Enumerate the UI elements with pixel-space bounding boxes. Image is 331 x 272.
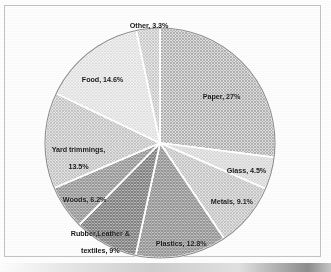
slice-label-food: Food, 14.6% (74, 68, 123, 93)
slice-label-food-line1: Food, 14.6% (82, 75, 123, 84)
slice-label-other-line1: Other, 3.3% (130, 21, 169, 30)
slice-label-woods: Woods, 6.2% (55, 188, 106, 213)
slice-label-metals: Metals, 9.1% (203, 190, 253, 215)
slice-label-plastics-line1: Plastics, 12.8% (156, 239, 207, 248)
slice-label-paper-line1: Paper, 27% (203, 92, 240, 101)
slice-label-yard-trimmings: Yard trimmings, 13.5% (44, 138, 105, 180)
scan-edge-artifact (0, 263, 331, 272)
slice-label-plastics: Plastics, 12.8% (148, 232, 207, 257)
pie-chart-figure: Paper, 27% Glass, 4.5% Metals, 9.1% Plas… (0, 0, 331, 272)
slice-label-paper: Paper, 27% (195, 85, 240, 110)
slice-label-glass-line1: Glass, 4.5% (227, 166, 266, 175)
slice-label-rubber-leather-textiles: Rubber,Leather & textiles, 9% (63, 222, 130, 264)
slice-label-rubber-line1: Rubber,Leather & (71, 229, 130, 238)
slice-label-metals-line1: Metals, 9.1% (211, 197, 253, 206)
slice-label-yard-line1: Yard trimmings, (52, 145, 106, 154)
slice-label-woods-line1: Woods, 6.2% (63, 195, 107, 204)
slice-label-rubber-line2: textiles, 9% (81, 246, 120, 255)
slice-label-glass: Glass, 4.5% (219, 159, 266, 184)
slice-label-other: Other, 3.3% (122, 14, 168, 39)
slice-label-yard-line2: 13.5% (68, 162, 88, 171)
